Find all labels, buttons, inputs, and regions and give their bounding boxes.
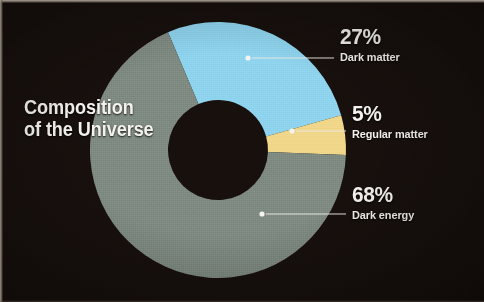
- leader-dot-dark-matter: [245, 55, 250, 60]
- infographic-canvas: Composition of the Universe 27% Dark mat…: [0, 0, 484, 302]
- callout-regular-matter: 5% Regular matter: [352, 103, 432, 141]
- leader-dot-regular-matter: [289, 128, 294, 133]
- callout-regular-matter-label: Regular matter: [352, 127, 428, 141]
- callout-dark-matter: 27% Dark matter: [340, 26, 403, 64]
- page-title-line-2: of the Universe: [24, 118, 154, 140]
- callout-dark-energy-label: Dark energy: [352, 208, 414, 222]
- donut-chart: [0, 0, 484, 302]
- callout-dark-matter-value: 27%: [340, 26, 400, 48]
- donut-slices: [90, 22, 346, 278]
- leader-dot-dark-energy: [259, 211, 264, 216]
- callout-regular-matter-value: 5%: [352, 103, 428, 125]
- callout-dark-matter-label: Dark matter: [340, 50, 400, 64]
- scan-edge-top: [0, 0, 484, 3]
- scan-edge-left: [0, 0, 3, 302]
- page-title-line-1: Composition: [24, 96, 134, 118]
- page-title: Composition of the Universe: [24, 96, 154, 140]
- callout-dark-energy: 68% Dark energy: [352, 184, 417, 222]
- callout-dark-energy-value: 68%: [352, 184, 414, 206]
- donut-slice-dark-matter[interactable]: [168, 22, 341, 136]
